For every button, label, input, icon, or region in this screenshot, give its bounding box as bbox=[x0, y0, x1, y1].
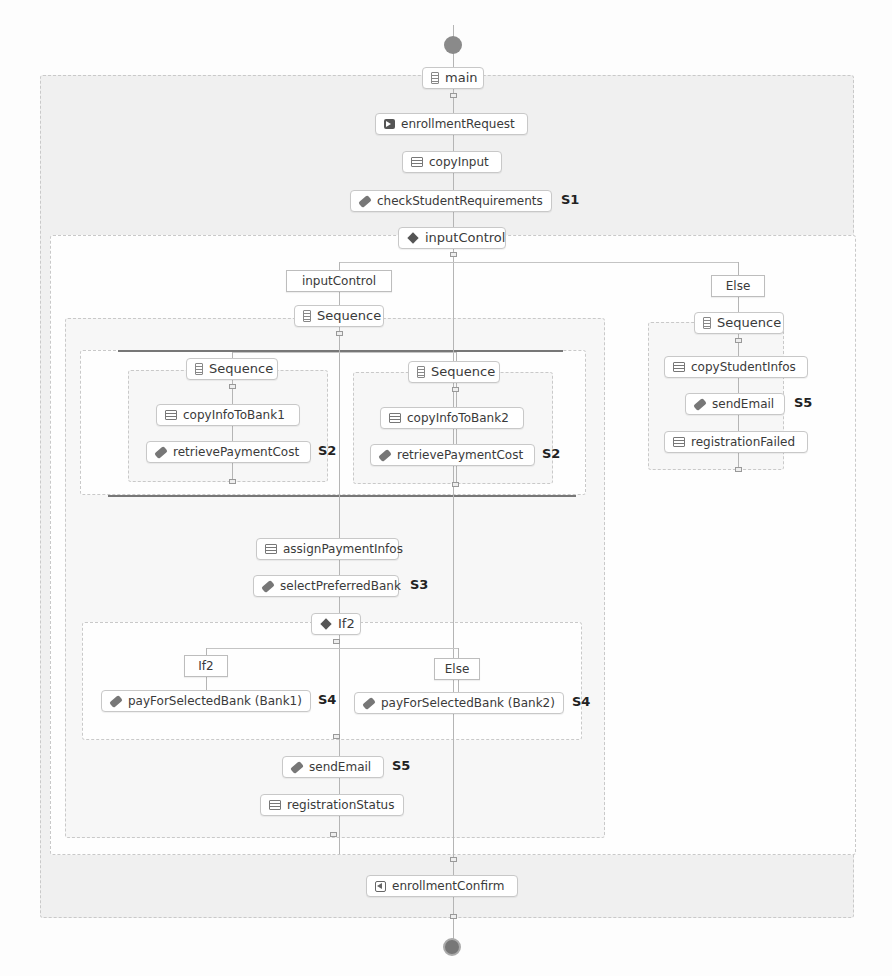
else-send-email-node[interactable]: sendEmail bbox=[685, 393, 785, 415]
collapse-toggle-icon[interactable] bbox=[450, 857, 457, 862]
if-diamond-icon bbox=[320, 618, 331, 629]
collapse-toggle-icon[interactable] bbox=[330, 832, 337, 837]
invoke-icon bbox=[362, 696, 376, 709]
collapse-toggle-icon[interactable] bbox=[450, 93, 457, 98]
sequence-icon bbox=[417, 366, 425, 378]
enrollment-confirm-node[interactable]: enrollmentConfirm bbox=[366, 875, 518, 897]
step-tag: S3 bbox=[410, 577, 428, 592]
registration-status-node[interactable]: registrationStatus bbox=[260, 794, 404, 816]
select-preferred-bank-node[interactable]: selectPreferredBank bbox=[253, 575, 399, 597]
step-tag: S5 bbox=[392, 758, 410, 773]
copy-student-infos-node[interactable]: copyStudentInfos bbox=[664, 356, 808, 378]
right-sequence-node[interactable]: Sequence bbox=[408, 361, 500, 383]
step-tag: S1 bbox=[561, 192, 579, 207]
reply-icon bbox=[375, 881, 386, 892]
assign-icon bbox=[411, 157, 423, 167]
collapse-toggle-icon[interactable] bbox=[229, 479, 236, 484]
sequence-icon bbox=[195, 363, 203, 375]
assign-icon bbox=[265, 544, 277, 554]
collapse-toggle-icon[interactable] bbox=[735, 467, 742, 472]
invoke-icon bbox=[109, 694, 123, 707]
collapse-toggle-icon[interactable] bbox=[333, 734, 340, 739]
pay-for-selected-bank1-node[interactable]: payForSelectedBank (Bank1) bbox=[101, 690, 311, 712]
input-control-sequence-node[interactable]: Sequence bbox=[294, 305, 384, 327]
check-student-requirements-node[interactable]: checkStudentRequirements bbox=[350, 190, 552, 212]
left-sequence-frame bbox=[128, 370, 328, 482]
collapse-toggle-icon[interactable] bbox=[336, 331, 343, 336]
step-tag: S5 bbox=[794, 395, 812, 410]
left-sequence-node[interactable]: Sequence bbox=[186, 358, 278, 380]
assign-payment-infos-node[interactable]: assignPaymentInfos bbox=[256, 538, 399, 560]
end-event-icon[interactable] bbox=[443, 938, 461, 956]
collapse-toggle-icon[interactable] bbox=[452, 387, 459, 392]
assign-icon bbox=[673, 437, 685, 447]
assign-icon bbox=[673, 362, 685, 372]
copy-info-to-bank2-node[interactable]: copyInfoToBank2 bbox=[380, 407, 524, 429]
enrollment-request-node[interactable]: enrollmentRequest bbox=[375, 113, 528, 135]
branch-connector bbox=[339, 262, 739, 263]
registration-failed-node[interactable]: registrationFailed bbox=[664, 431, 808, 453]
step-tag: S4 bbox=[572, 694, 590, 709]
step-tag: S2 bbox=[542, 446, 560, 461]
collapse-toggle-icon[interactable] bbox=[450, 914, 457, 919]
invoke-icon bbox=[693, 397, 707, 410]
send-email-node[interactable]: sendEmail bbox=[282, 756, 384, 778]
collapse-toggle-icon[interactable] bbox=[450, 252, 457, 257]
sequence-icon bbox=[303, 310, 311, 322]
connector bbox=[453, 25, 454, 855]
else-sequence-node[interactable]: Sequence bbox=[694, 312, 784, 334]
step-tag: S2 bbox=[318, 443, 336, 458]
retrieve-payment-cost-bank1-node[interactable]: retrievePaymentCost bbox=[146, 441, 311, 463]
sequence-icon bbox=[431, 72, 439, 84]
invoke-icon bbox=[261, 579, 275, 592]
if2-branch-connector bbox=[206, 648, 458, 649]
else-condition-label[interactable]: Else bbox=[711, 275, 765, 297]
invoke-icon bbox=[290, 760, 304, 773]
if2-frame bbox=[82, 622, 582, 740]
flow-bottom-bar bbox=[108, 495, 576, 497]
retrieve-payment-cost-bank2-node[interactable]: retrievePaymentCost bbox=[370, 444, 535, 466]
copy-info-to-bank1-node[interactable]: copyInfoToBank1 bbox=[156, 404, 300, 426]
copy-input-node[interactable]: copyInput bbox=[402, 151, 502, 173]
if2-condition-label[interactable]: If2 bbox=[184, 655, 228, 677]
assign-icon bbox=[389, 413, 401, 423]
step-tag: S4 bbox=[318, 692, 336, 707]
start-event-icon[interactable] bbox=[444, 36, 462, 54]
pay-for-selected-bank2-node[interactable]: payForSelectedBank (Bank2) bbox=[354, 692, 564, 714]
collapse-toggle-icon[interactable] bbox=[229, 384, 236, 389]
if-diamond-icon bbox=[407, 232, 418, 243]
if2-node[interactable]: If2 bbox=[311, 613, 361, 635]
invoke-icon bbox=[358, 194, 372, 207]
sequence-icon bbox=[703, 317, 711, 329]
invoke-icon bbox=[154, 445, 168, 458]
input-control-if-node[interactable]: inputControl bbox=[398, 227, 506, 249]
flow-connector bbox=[232, 352, 457, 353]
collapse-toggle-icon[interactable] bbox=[333, 639, 340, 644]
collapse-toggle-icon[interactable] bbox=[735, 338, 742, 343]
assign-icon bbox=[165, 410, 177, 420]
input-control-condition-label[interactable]: inputControl bbox=[286, 270, 392, 292]
main-sequence-node[interactable]: main bbox=[422, 67, 484, 89]
assign-icon bbox=[269, 800, 281, 810]
collapse-toggle-icon[interactable] bbox=[452, 482, 459, 487]
receive-icon bbox=[384, 119, 395, 129]
invoke-icon bbox=[378, 448, 392, 461]
if2-else-label[interactable]: Else bbox=[434, 658, 480, 680]
